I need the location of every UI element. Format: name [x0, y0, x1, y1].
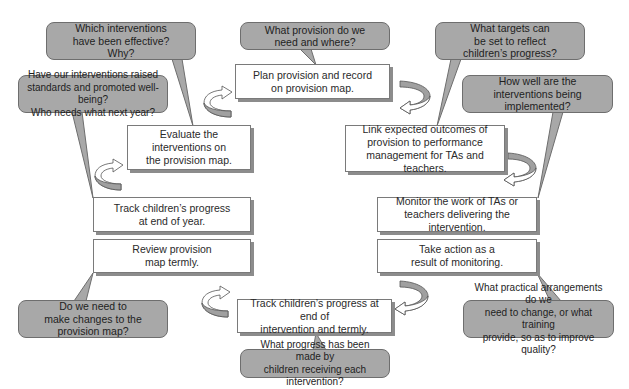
- provision-cycle-diagram: Which interventions have been effective?…: [0, 0, 629, 389]
- step-text: Evaluate the interventions on the provis…: [146, 128, 232, 167]
- step-box-link-outcomes: Link expected outcomes of provision to p…: [345, 125, 505, 172]
- step-box-evaluate: Evaluate the interventions on the provis…: [127, 125, 251, 170]
- question-text: What progress has been made by children …: [247, 339, 383, 389]
- question-bubble-what-targets: What targets can be set to reflect child…: [435, 22, 585, 60]
- question-bubble-raised-standards: Have our interventions raised standards …: [18, 75, 168, 113]
- bubble-tail-what-targets: [437, 59, 461, 126]
- cycle-arrow-track-to-review: [202, 286, 230, 317]
- question-text: Which interventions have been effective?…: [73, 22, 170, 60]
- cycle-arrow-action-to-track: [395, 281, 428, 315]
- step-box-plan-provision: Plan provision and record on provision m…: [235, 64, 390, 99]
- step-box-take-action: Take action as a result of monitoring.: [377, 239, 537, 273]
- bubble-tail-make-changes: [74, 273, 93, 301]
- question-bubble-what-provision: What provision do we need and where?: [240, 22, 390, 50]
- step-text: Track children’s progress at end of year…: [114, 202, 231, 228]
- cycle-arrow-year-to-evaluate: [95, 159, 123, 190]
- step-text: Plan provision and record on provision m…: [253, 69, 372, 95]
- question-text: What targets can be set to reflect child…: [463, 22, 557, 60]
- bubble-tail-what-provision: [300, 49, 316, 65]
- cycle-arrow-evaluate-to-plan: [204, 86, 232, 117]
- question-text: How well are the interventions being imp…: [493, 75, 581, 113]
- step-text: Link expected outcomes of provision to p…: [352, 123, 498, 175]
- step-text: Take action as a result of monitoring.: [411, 243, 503, 269]
- question-bubble-what-progress: What progress has been made by children …: [240, 349, 390, 378]
- bubble-tail-how-well: [538, 112, 563, 198]
- cycle-arrow-link-to-monitor: [504, 153, 536, 186]
- question-bubble-practical-arrangements: What practical arrangements do we need t…: [463, 300, 614, 338]
- bubble-tail-raised-standards: [72, 112, 93, 198]
- step-box-track-year: Track children’s progress at end of year…: [93, 197, 251, 232]
- question-bubble-how-well: How well are the interventions being imp…: [462, 75, 613, 113]
- question-bubble-make-changes: Do we need to make changes to the provis…: [18, 300, 168, 338]
- step-text: Review provision map termly.: [132, 243, 211, 269]
- question-text: Have our interventions raised standards …: [25, 69, 161, 119]
- cycle-arrow-plan-to-link: [400, 81, 430, 114]
- question-text: What provision do we need and where?: [265, 24, 365, 49]
- question-bubble-which-effective: Which interventions have been effective?…: [46, 22, 196, 60]
- question-text: What practical arrangements do we need t…: [470, 282, 607, 357]
- step-box-monitor: Monitor the work of TAs or teachers deli…: [377, 197, 537, 232]
- step-text: Monitor the work of TAs or teachers deli…: [384, 195, 530, 234]
- bubble-tail-which-effective: [172, 59, 193, 126]
- step-box-track-intervention: Track children’s progress at end of inte…: [237, 299, 392, 333]
- step-text: Track children’s progress at end of inte…: [244, 297, 385, 336]
- question-text: Do we need to make changes to the provis…: [44, 300, 141, 338]
- step-box-review: Review provision map termly.: [93, 239, 251, 273]
